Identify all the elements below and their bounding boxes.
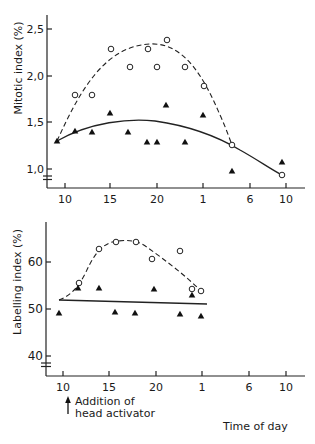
x-tick: 10: [279, 193, 293, 206]
top-panel: 2,5 2,0 1,5 1,0 Mitotic index (%) 10 15 …: [12, 15, 305, 206]
top-x-axis: [47, 183, 305, 188]
top-circle-points: [72, 37, 285, 178]
x-tick: 15: [102, 381, 116, 394]
x-tick: 20: [150, 193, 164, 206]
bottom-y-tick-labels: 60 50 40: [28, 255, 43, 363]
y-tick: 1,0: [27, 163, 45, 176]
bottom-panel: 60 50 40 Labelling index (%) 10 15 20 1 …: [11, 222, 305, 433]
y-tick: 2,5: [27, 23, 45, 36]
x-tick: 10: [279, 381, 293, 394]
top-y-axis-label: Mitotic index (%): [12, 21, 25, 114]
x-tick: 6: [247, 193, 254, 206]
x-tick: 20: [149, 381, 163, 394]
top-solid-fit-curve: [57, 120, 282, 175]
y-tick: 40: [28, 349, 43, 363]
top-y-axis: [43, 15, 52, 188]
bottom-x-tick-labels: 10 15 20 1 6 10: [56, 381, 293, 394]
x-tick: 15: [103, 193, 117, 206]
y-tick: 1,5: [27, 116, 45, 129]
chart-svg: 2,5 2,0 1,5 1,0 Mitotic index (%) 10 15 …: [0, 0, 315, 444]
bottom-circle-points: [76, 239, 204, 294]
bottom-y-axis-label: Labelling index (%): [11, 229, 24, 335]
figure: 2,5 2,0 1,5 1,0 Mitotic index (%) 10 15 …: [0, 0, 315, 444]
top-x-tick-labels: 10 15 20 1 6 10: [58, 193, 293, 206]
x-tick: 6: [246, 381, 253, 394]
x-tick: 10: [58, 193, 72, 206]
x-axis-label: Time of day: [222, 420, 288, 433]
top-y-tick-labels: 2,5 2,0 1,5 1,0: [27, 23, 45, 176]
y-tick: 60: [28, 255, 43, 269]
x-tick: 10: [56, 381, 70, 394]
x-tick: 1: [200, 193, 207, 206]
up-arrow-icon: [65, 396, 71, 414]
top-triangle-points: [54, 102, 286, 174]
y-tick: 2,0: [27, 70, 45, 83]
annotation-line-2: head activator: [75, 407, 155, 420]
bottom-x-axis: [46, 371, 305, 376]
y-tick: 50: [28, 302, 43, 316]
x-tick: 1: [199, 381, 206, 394]
bottom-solid-fit-line: [59, 300, 207, 304]
